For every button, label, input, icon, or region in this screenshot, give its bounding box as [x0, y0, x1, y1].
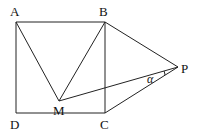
segment-MP — [59, 67, 178, 101]
geometry-diagram: A B C D M P α — [0, 0, 202, 134]
angle-label-alpha: α — [147, 72, 154, 86]
label-A: A — [10, 4, 20, 19]
segment-BM — [59, 22, 105, 101]
segments — [16, 22, 178, 113]
segment-BP — [105, 22, 178, 67]
segment-AM — [16, 22, 59, 101]
label-B: B — [99, 4, 108, 19]
angle-arc-alpha — [164, 71, 165, 75]
label-P: P — [181, 61, 188, 76]
label-C: C — [100, 117, 109, 132]
label-D: D — [10, 117, 19, 132]
label-M: M — [53, 103, 65, 118]
segment-CP — [105, 67, 178, 113]
